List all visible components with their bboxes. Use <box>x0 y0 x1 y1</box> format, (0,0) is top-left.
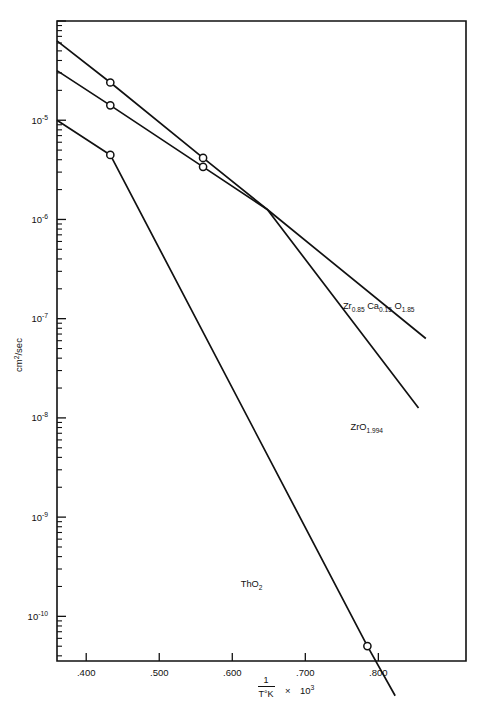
x-axis-title-factor-exp: 3 <box>311 684 315 691</box>
x-axis-title-numerator: 1 <box>263 675 268 685</box>
data-point-markers <box>107 79 371 650</box>
data-point-marker <box>199 154 206 161</box>
y-tick-label: 10-9 <box>31 511 48 523</box>
series-annotations: Zr0.85 Ca0.15 O1.85ZrO1.994ThO2 <box>241 301 415 591</box>
series-label: ThO2 <box>241 579 263 591</box>
chart-canvas: 10-510-610-710-810-910-10 .400.500.600.7… <box>0 0 484 712</box>
x-axis-title-factor-base: 10 <box>300 685 311 696</box>
data-point-marker <box>107 151 114 158</box>
data-series-group <box>57 41 426 696</box>
svg-text:cm2/sec: cm2/sec <box>13 338 24 372</box>
arrhenius-diffusivity-chart: 10-510-610-710-810-910-10 .400.500.600.7… <box>0 0 484 712</box>
data-point-marker <box>107 102 114 109</box>
x-axis-tick-labels: .400.500.600.700.800 <box>77 667 388 678</box>
series-label: Zr0.85 Ca0.15 O1.85 <box>343 301 415 313</box>
data-point-marker <box>364 643 371 650</box>
y-axis-ticks <box>57 21 66 656</box>
x-axis-title-times: × <box>285 685 291 696</box>
data-point-marker <box>107 79 114 86</box>
x-axis-title: 1 T°K × 103 <box>258 675 315 699</box>
y-tick-label: 10-6 <box>31 213 48 225</box>
y-axis-title: cm2/sec <box>13 338 24 372</box>
plot-frame <box>57 21 466 661</box>
series-line <box>57 120 395 696</box>
x-tick-label: .500 <box>150 667 169 678</box>
x-tick-label: .600 <box>223 667 242 678</box>
x-axis-ticks <box>86 653 378 661</box>
y-tick-label: 10-5 <box>31 114 48 126</box>
y-axis-title-tail: /sec <box>13 338 24 356</box>
y-tick-label: 10-10 <box>28 610 49 622</box>
series-line <box>57 71 419 408</box>
series-label: ZrO1.994 <box>351 422 384 434</box>
data-point-marker <box>199 163 206 170</box>
y-tick-label: 10-8 <box>31 411 48 423</box>
x-axis-title-denominator: T°K <box>258 689 273 699</box>
x-axis-title-factor: 103 <box>300 684 315 696</box>
y-axis-title-base: cm <box>13 359 24 372</box>
x-tick-label: .400 <box>77 667 96 678</box>
y-axis-tick-labels: 10-510-610-710-810-910-10 <box>28 114 49 622</box>
x-tick-label: .700 <box>296 667 315 678</box>
y-tick-label: 10-7 <box>31 312 48 324</box>
